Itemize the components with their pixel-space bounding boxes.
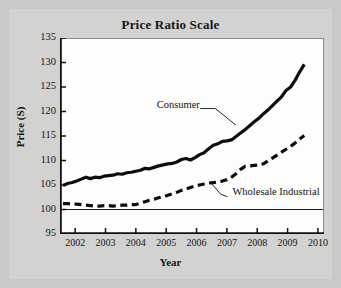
chart-card: Price Ratio Scale Price (S) Year 1351301… xyxy=(9,9,332,279)
y-tick-label: 125 xyxy=(16,80,56,91)
series-label-consumer: Consumer xyxy=(157,99,200,110)
x-tick-label: 2010 xyxy=(298,237,338,248)
y-tick-label: 100 xyxy=(16,203,56,214)
y-tick-label: 115 xyxy=(16,129,56,140)
chart-svg xyxy=(60,38,324,234)
y-tick-label: 95 xyxy=(16,227,56,238)
y-tick-label: 110 xyxy=(16,154,56,165)
chart-title: Price Ratio Scale xyxy=(9,17,332,33)
y-tick-label: 105 xyxy=(16,178,56,189)
y-tick-label: 130 xyxy=(16,56,56,67)
y-tick-label: 120 xyxy=(16,105,56,116)
plot-area: Consumer Wholesale Industrial xyxy=(60,38,324,234)
series-label-wholesale-industrial: Wholesale Industrial xyxy=(232,186,319,197)
y-tick-label: 135 xyxy=(16,31,56,42)
x-axis-label: Year xyxy=(9,256,332,268)
y-axis-label: Price (S) xyxy=(14,92,26,162)
